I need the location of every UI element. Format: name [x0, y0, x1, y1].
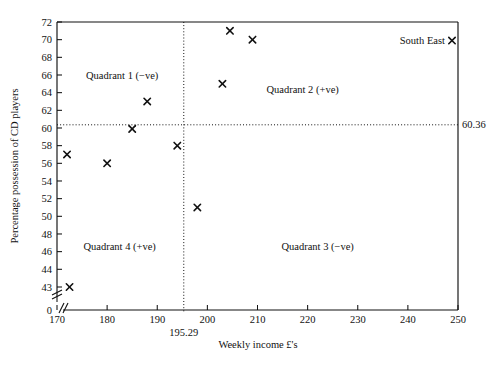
y-tick-label: 72 — [42, 17, 53, 28]
x-tick-label: 190 — [149, 314, 165, 325]
y-tick-label: 64 — [42, 87, 53, 98]
x-tick-label: 250 — [450, 314, 466, 325]
y-axis-ticks: 43444648505254565860626466687072 — [42, 17, 63, 293]
quadrant-label: Quadrant 2 (+ve) — [266, 84, 339, 96]
y-tick-label: 62 — [42, 105, 53, 116]
horizontal-reference-label: 60.36 — [462, 119, 486, 130]
y-tick-label: 48 — [42, 229, 53, 240]
y-tick-label: 60 — [42, 123, 53, 134]
data-point-marker — [66, 284, 72, 290]
data-point-marker — [449, 37, 455, 43]
y-tick-label: 58 — [42, 140, 53, 151]
y-tick-label: 68 — [42, 52, 53, 63]
y-tick-label: 70 — [42, 34, 53, 45]
scatter-plot: 0 43444648505254565860626466687072 17018… — [0, 0, 498, 370]
y-axis-title: Percentage possession of CD players — [9, 88, 20, 243]
point-labels: South East — [400, 35, 445, 46]
quadrant-annotations: Quadrant 1 (−ve)Quadrant 2 (+ve)Quadrant… — [83, 70, 354, 253]
x-tick-label: 210 — [250, 314, 266, 325]
y-tick-label: 52 — [42, 193, 53, 204]
quadrant-label: Quadrant 3 (−ve) — [281, 241, 354, 253]
x-tick-label: 230 — [350, 314, 366, 325]
x-tick-label: 220 — [300, 314, 316, 325]
data-point-marker — [249, 36, 255, 42]
data-point-label: South East — [400, 35, 445, 46]
y-tick-label: 66 — [42, 70, 53, 81]
x-tick-label: 180 — [99, 314, 115, 325]
y-tick-label: 46 — [42, 246, 53, 257]
y-tick-label: 44 — [42, 264, 53, 275]
quadrant-label: Quadrant 1 (−ve) — [86, 70, 159, 82]
data-point-marker — [144, 98, 150, 104]
chart-canvas: 0 43444648505254565860626466687072 17018… — [0, 0, 498, 370]
y-tick-label: 54 — [42, 176, 53, 187]
y-tick-label: 56 — [42, 158, 53, 169]
data-point-marker — [174, 142, 180, 148]
x-tick-label: 240 — [400, 314, 416, 325]
quadrant-label: Quadrant 4 (+ve) — [83, 241, 156, 253]
data-point-marker — [64, 151, 70, 157]
x-axis-title: Weekly income £'s — [218, 339, 297, 350]
data-point-marker — [219, 81, 225, 87]
x-tick-label: 170 — [49, 314, 65, 325]
data-point-marker — [194, 204, 200, 210]
vertical-reference-label: 195.29 — [169, 327, 198, 338]
data-point-marker — [227, 28, 233, 34]
data-point-marker — [104, 160, 110, 166]
plot-frame — [57, 22, 458, 310]
y-tick-label: 50 — [42, 211, 53, 222]
data-point-marker — [129, 126, 135, 132]
x-axis-break-icon — [59, 303, 68, 313]
x-axis-ticks: 170180190200210220230240250 — [49, 305, 466, 325]
x-tick-label: 200 — [200, 314, 216, 325]
y-tick-label: 43 — [42, 282, 53, 293]
